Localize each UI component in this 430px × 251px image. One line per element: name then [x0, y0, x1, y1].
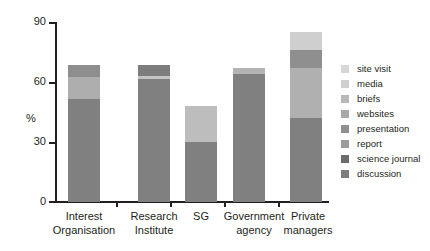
y-tick-label-60: 60 — [14, 76, 46, 87]
x-category-line-2: Institute — [124, 224, 184, 238]
x-tick-1 — [116, 201, 118, 207]
legend-label: websites — [357, 107, 394, 121]
legend-swatch-icon — [341, 65, 349, 73]
bar-segment-discussion — [233, 74, 265, 202]
bar-segment-site-visit — [290, 32, 322, 50]
y-axis-line — [55, 22, 57, 202]
bar-segment-discussion — [290, 118, 322, 202]
bar-segment-discussion — [185, 142, 217, 202]
x-category-line-1: Research — [124, 210, 184, 224]
legend-swatch-icon — [341, 125, 349, 133]
x-category-line-1: Interest — [52, 210, 116, 224]
bar-segment-report — [185, 106, 217, 142]
legend-swatch-icon — [341, 155, 349, 163]
x-category-label-private-managers: Private managers — [278, 210, 338, 237]
bar-segment-report — [68, 77, 100, 99]
legend-swatch-icon — [341, 80, 349, 88]
y-tick-label-30: 30 — [14, 136, 46, 147]
bar-segment-discussion — [68, 99, 100, 202]
y-tick-30 — [49, 142, 55, 144]
legend-label: briefs — [357, 92, 380, 106]
legend-label: discussion — [357, 167, 401, 181]
legend-swatch-icon — [341, 95, 349, 103]
legend-swatch-icon — [341, 140, 349, 148]
legend-label: presentation — [357, 122, 409, 136]
x-category-line-2: managers — [278, 224, 338, 238]
bar-segment-websites — [68, 65, 100, 77]
bar-segment-websites — [290, 50, 322, 68]
bar-segment-discussion — [138, 79, 170, 202]
legend-label: media — [357, 77, 383, 91]
bar-segment-briefs — [233, 68, 265, 74]
x-category-label-sg: SG — [182, 210, 220, 224]
x-tick-2 — [170, 201, 172, 207]
x-category-label-research-institute: Research Institute — [124, 210, 184, 237]
legend-swatch-icon — [341, 170, 349, 178]
y-tick-90 — [49, 22, 55, 24]
legend-swatch-icon — [341, 110, 349, 118]
bar-segment-science-journal — [138, 76, 170, 79]
x-tick-4 — [278, 201, 280, 207]
y-tick-label-90: 90 — [14, 16, 46, 27]
stacked-bar-chart: 90 60 30 0 % Interest — [0, 0, 430, 251]
legend-label: site visit — [357, 62, 391, 76]
y-tick-0 — [49, 201, 55, 203]
x-category-line-1: Private — [278, 210, 338, 224]
y-tick-60 — [49, 82, 55, 84]
y-tick-label-0: 0 — [14, 196, 46, 207]
x-category-line-2: Organisation — [52, 224, 116, 238]
legend-label: report — [357, 137, 382, 151]
x-category-line-1: SG — [182, 210, 220, 224]
legend-label: science journal — [357, 152, 420, 166]
x-tick-3 — [224, 201, 226, 207]
bar-segment-report — [290, 68, 322, 118]
bar-segment-discussion-top — [138, 65, 170, 76]
y-axis-title: % — [26, 113, 36, 124]
x-category-label-interest-organisation: Interest Organisation — [52, 210, 116, 237]
